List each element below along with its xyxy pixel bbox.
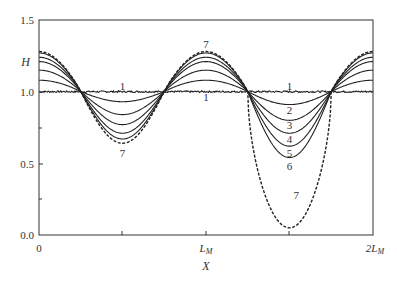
curve-label-1: 1 (287, 80, 293, 92)
curve-label-5: 5 (287, 147, 293, 159)
x-tick-2lm: 2LM (366, 242, 386, 256)
y-axis-label: H (20, 55, 31, 69)
x-tick-lm: LM (199, 242, 214, 256)
curve-labels: 11771234567 (120, 38, 300, 201)
curve-label-7: 7 (203, 38, 209, 50)
chart: 11771234567 1.5 H 1.0 0.5 0.0 0 LM 2LM X (0, 0, 397, 285)
plot-frame (39, 20, 373, 235)
curve-label-7: 7 (120, 147, 126, 159)
curve-label-1: 1 (203, 91, 209, 103)
y-tick-1.5: 1.5 (20, 14, 34, 26)
curve-label-4: 4 (287, 133, 293, 145)
curve-label-6: 6 (287, 160, 293, 172)
x-axis-label: X (201, 259, 210, 273)
y-tick-1.0: 1.0 (20, 86, 34, 98)
curve-7 (39, 52, 373, 228)
y-tick-0.5: 0.5 (20, 158, 34, 170)
curve-label-3: 3 (287, 119, 293, 131)
curves (39, 52, 373, 228)
y-tick-0.0: 0.0 (20, 229, 34, 241)
curve-label-2: 2 (287, 104, 293, 116)
x-tick-0: 0 (36, 242, 42, 254)
axis-ticks (39, 92, 289, 235)
curve-label-1: 1 (120, 80, 126, 92)
curve-label-7: 7 (293, 189, 299, 201)
